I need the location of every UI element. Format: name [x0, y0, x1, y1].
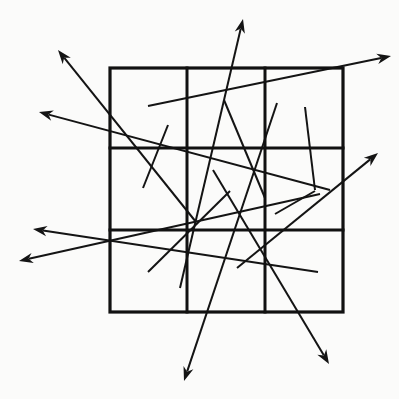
- line-figure-canvas: [0, 0, 399, 399]
- figure-background: [0, 0, 399, 399]
- figure-container: [0, 0, 399, 399]
